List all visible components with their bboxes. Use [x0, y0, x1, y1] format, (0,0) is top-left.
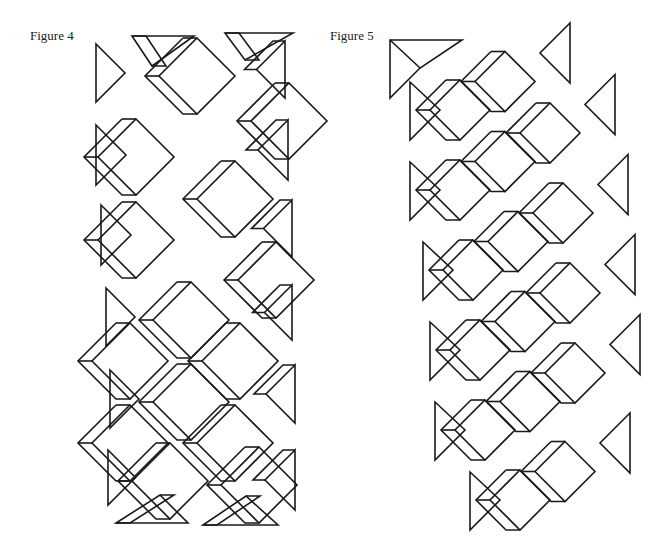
row-right-triangle	[610, 315, 640, 375]
diagram-canvas	[0, 0, 652, 556]
row-right-triangle	[540, 23, 570, 83]
row-right-triangle	[600, 413, 630, 473]
cube-face	[545, 343, 605, 403]
cube-face	[500, 372, 560, 432]
cube-face	[520, 103, 580, 163]
triangle-bevel	[253, 450, 295, 480]
right-triangle	[258, 120, 288, 180]
right-triangle	[266, 365, 295, 423]
figure-5-pattern	[390, 23, 640, 530]
row-right-triangle	[585, 75, 615, 135]
cube-face	[540, 263, 600, 323]
cube-face	[197, 405, 273, 481]
figure-4-pattern	[78, 33, 327, 525]
triangle-bevel	[245, 41, 286, 70]
bottom-triangle	[203, 496, 278, 525]
cube-face	[153, 364, 229, 440]
left-triangle	[106, 288, 135, 346]
right-triangle	[264, 200, 293, 257]
row-right-triangle	[605, 235, 635, 295]
cube-face	[153, 282, 229, 358]
cube-face	[535, 442, 595, 502]
left-triangle	[101, 205, 131, 265]
right-triangle	[257, 41, 286, 98]
cube-face	[159, 38, 235, 114]
cube-face	[92, 323, 168, 399]
triangle-bevel	[246, 120, 288, 150]
triangle-bevel	[390, 40, 420, 68]
cube-face	[475, 132, 535, 192]
cube-face	[98, 119, 174, 195]
cube-face	[533, 183, 593, 243]
cube-face	[197, 161, 273, 237]
cube-face	[488, 212, 548, 272]
row-right-triangle	[598, 155, 628, 215]
cube-face	[495, 292, 555, 352]
cube-face	[475, 52, 535, 112]
left-triangle	[96, 44, 125, 102]
cube-face	[251, 83, 327, 159]
cube-face	[132, 443, 208, 519]
right-triangle	[265, 285, 293, 340]
cube-face	[202, 323, 278, 399]
cube-face	[238, 242, 314, 318]
